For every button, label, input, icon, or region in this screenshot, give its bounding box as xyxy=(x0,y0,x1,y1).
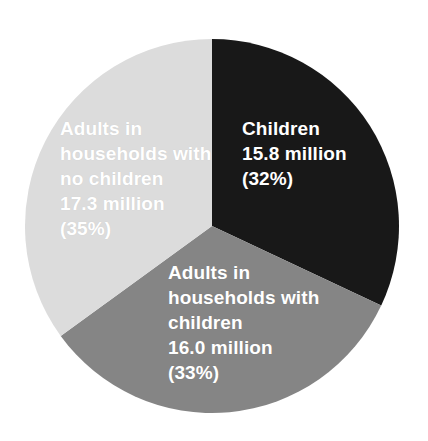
pie-chart-figure: Children 15.8 million (32%) Adults in ho… xyxy=(0,0,428,441)
pie-slice-label-adults-no-children: Adults in households with no children 17… xyxy=(60,116,225,241)
pie-slice-label-adults-with-children: Adults in households with children 16.0 … xyxy=(168,260,348,385)
pie-slice-label-children: Children 15.8 million (32%) xyxy=(242,116,392,191)
